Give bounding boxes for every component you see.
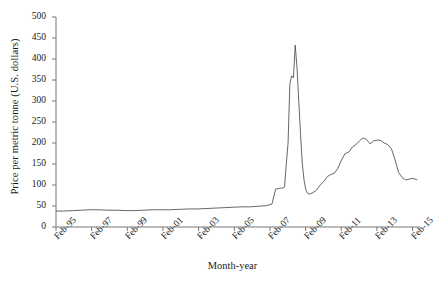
price-line <box>56 45 417 211</box>
y-tick-marks <box>52 17 56 227</box>
data-series-group <box>56 45 417 211</box>
axis-lines <box>56 17 420 227</box>
x-tick-marks <box>56 227 413 231</box>
